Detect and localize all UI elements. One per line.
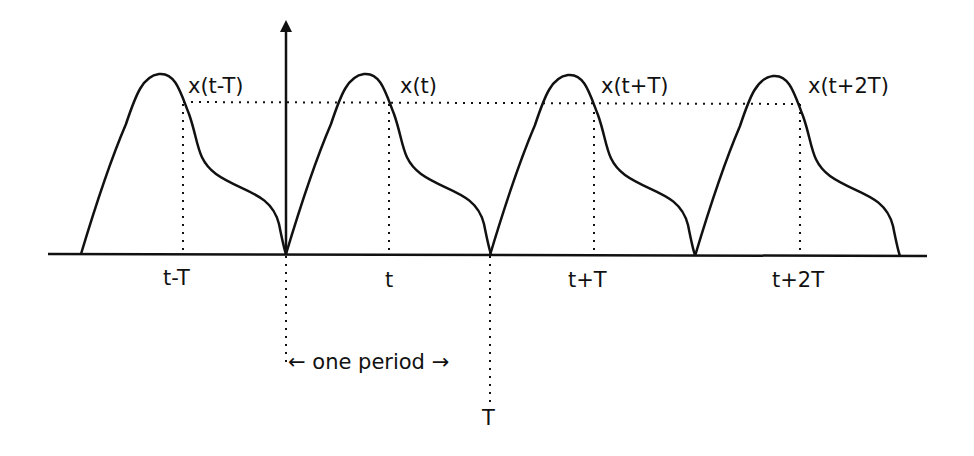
period-label: one period [312, 350, 425, 374]
curve-label-x-t-plus-T: x(t+T) [601, 76, 668, 97]
waveform-period-4 [695, 76, 900, 256]
axis-label-t-minus-T: t-T [163, 268, 190, 289]
periodic-signal-diagram [0, 0, 974, 456]
axis-arrow-icon [280, 20, 292, 32]
curve-label-x-t-plus-2T: x(t+2T) [808, 76, 889, 97]
right-arrow-icon: → [432, 350, 450, 374]
level-dotted-line [183, 102, 800, 104]
axis-label-t: t [385, 270, 393, 291]
curve-label-x-t: x(t) [400, 76, 437, 97]
time-axis [48, 254, 927, 256]
waveform-period-3 [490, 75, 695, 255]
left-arrow-icon: ← [288, 350, 306, 374]
axis-label-t-plus-T: t+T [568, 270, 607, 291]
waveform-period-1 [81, 74, 286, 254]
period-annotation: ← one period → [288, 352, 449, 373]
curve-label-x-t-minus-T: x(t-T) [188, 76, 244, 97]
axis-label-t-plus-2T: t+2T [772, 270, 824, 291]
period-end-label: T [482, 408, 495, 429]
waveform-period-2 [286, 74, 491, 254]
